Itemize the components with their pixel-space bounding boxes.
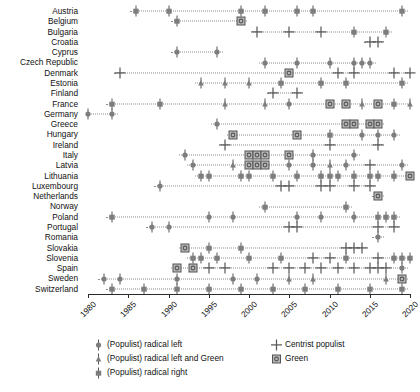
marker-radical-right-icon <box>108 283 117 294</box>
marker-radical-right-icon <box>389 98 398 109</box>
marker-radical-left-and-green-icon <box>406 98 415 109</box>
marker-radical-right-icon <box>261 201 270 212</box>
country-row: Slovakia <box>88 243 410 253</box>
marker-radical-right-icon <box>309 6 318 17</box>
country-row: Hungary <box>88 129 410 139</box>
legend-label: Green <box>285 352 308 365</box>
country-row: Latvia <box>88 160 410 170</box>
marker-radical-left-and-green-icon <box>196 78 205 89</box>
marker-centrist-populist-icon <box>348 263 359 274</box>
legend-marker-radical-right-icon <box>92 367 105 378</box>
marker-radical-left-icon <box>373 232 382 243</box>
x-tick-label: 1980 <box>78 299 98 319</box>
marker-radical-right-icon <box>349 26 358 37</box>
marker-radical-left-icon <box>349 211 358 222</box>
marker-radical-right-icon <box>293 6 302 17</box>
country-row: Switzerland <box>88 284 410 294</box>
marker-green-icon <box>373 120 382 129</box>
marker-radical-left-icon <box>389 129 398 140</box>
marker-radical-left-icon <box>228 211 237 222</box>
country-row: Greece <box>88 119 410 129</box>
marker-green-icon <box>261 151 270 160</box>
marker-radical-left-and-green-icon <box>220 78 229 89</box>
x-tick <box>209 294 210 298</box>
legend-label: (Populist) radical left <box>107 338 182 351</box>
legend-label: Centrist populist <box>285 338 345 351</box>
marker-radical-right-icon <box>397 78 406 89</box>
country-row: Bulgaria <box>88 27 410 37</box>
marker-green-icon <box>325 99 334 108</box>
marker-radical-right-icon <box>236 6 245 17</box>
marker-centrist-populist-icon <box>284 180 295 191</box>
marker-centrist-populist-icon <box>324 180 335 191</box>
marker-radical-left-and-green-icon <box>261 98 270 109</box>
marker-radical-right-icon <box>132 6 141 17</box>
marker-radical-right-icon <box>172 16 181 27</box>
marker-radical-right-icon <box>389 170 398 181</box>
marker-radical-left-icon <box>156 180 165 191</box>
marker-centrist-populist-icon <box>252 26 263 37</box>
marker-green-icon <box>349 120 358 129</box>
marker-radical-left-icon <box>317 211 326 222</box>
x-tick <box>88 294 89 298</box>
country-row: Finland <box>88 88 410 98</box>
x-tick <box>249 294 250 298</box>
country-row: France <box>88 99 410 109</box>
marker-centrist-populist-icon <box>356 242 367 253</box>
marker-radical-right-icon <box>236 283 245 294</box>
marker-radical-right-icon <box>333 283 342 294</box>
marker-green-icon <box>373 99 382 108</box>
country-row: Norway <box>88 201 410 211</box>
plot-area: AustriaBelgiumBulgariaCroatiaCyprusCzech… <box>88 6 410 294</box>
country-row: Poland <box>88 212 410 222</box>
x-tick-label: 1995 <box>199 299 219 319</box>
country-row: Estonia <box>88 78 410 88</box>
country-row: Ireland <box>88 140 410 150</box>
marker-radical-left-icon <box>253 273 262 284</box>
x-tick <box>370 294 371 298</box>
marker-radical-left-icon <box>285 98 294 109</box>
country-label: Switzerland <box>0 284 78 296</box>
marker-centrist-populist-icon <box>284 26 295 37</box>
marker-radical-right-icon <box>204 283 213 294</box>
marker-centrist-populist-icon <box>348 180 359 191</box>
marker-centrist-populist-icon <box>364 180 375 191</box>
x-tick-label: 1985 <box>118 299 138 319</box>
marker-radical-right-icon <box>172 283 181 294</box>
marker-radical-left-icon <box>204 211 213 222</box>
country-row: Belgium <box>88 16 410 26</box>
marker-centrist-populist-icon <box>388 222 399 233</box>
marker-radical-right-icon <box>261 6 270 17</box>
marker-centrist-populist-icon <box>332 263 343 274</box>
marker-radical-left-icon <box>397 263 406 274</box>
x-tick-label: 2000 <box>239 299 259 319</box>
marker-green-icon <box>373 192 382 201</box>
timeline-connector <box>154 185 375 186</box>
marker-radical-right-icon <box>269 283 278 294</box>
country-row: Germany <box>88 109 410 119</box>
country-row: Spain <box>88 263 410 273</box>
marker-green-icon <box>228 130 237 139</box>
country-row: Denmark <box>88 68 410 78</box>
country-row: Italy <box>88 150 410 160</box>
legend-marker-centrist-populist-icon <box>270 339 283 350</box>
marker-centrist-populist-icon <box>219 139 230 150</box>
marker-radical-right-icon <box>317 78 326 89</box>
marker-radical-right-icon <box>406 252 415 263</box>
chart-legend: (Populist) radical left(Populist) radica… <box>0 330 417 392</box>
marker-radical-right-icon <box>140 283 149 294</box>
timeline-connector <box>259 206 352 207</box>
marker-centrist-populist-icon <box>268 263 279 274</box>
x-tick <box>289 294 290 298</box>
marker-radical-left-icon <box>116 273 125 284</box>
marker-radical-right-icon <box>245 252 254 263</box>
marker-radical-left-icon <box>148 222 157 233</box>
legend-marker-green-icon <box>270 354 283 363</box>
marker-radical-right-icon <box>365 283 374 294</box>
marker-radical-left-icon <box>397 160 406 171</box>
marker-radical-left-and-green-icon <box>357 98 366 109</box>
marker-radical-right-icon <box>397 6 406 17</box>
timeline-connector <box>114 72 410 73</box>
x-tick-label: 1990 <box>158 299 178 319</box>
